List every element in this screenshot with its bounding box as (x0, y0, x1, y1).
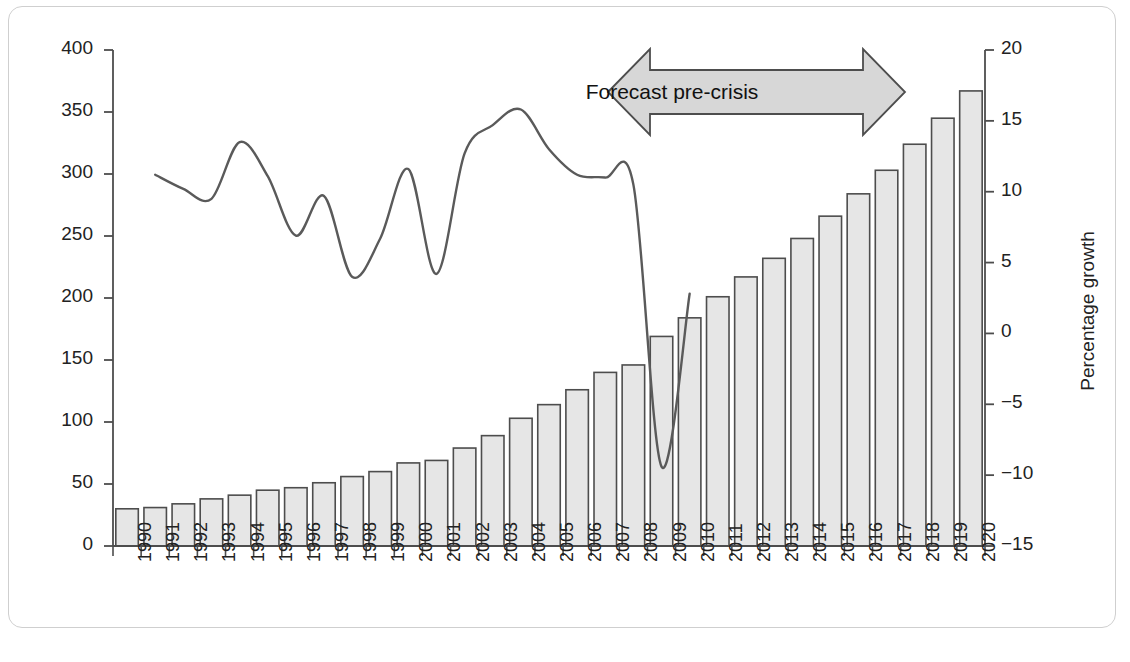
x-axis-tick-label-2012: 2012 (754, 522, 775, 562)
x-axis-tick-label-1991: 1991 (163, 522, 184, 562)
x-axis-tick-label-2020: 2020 (979, 522, 1000, 562)
bar-2013 (763, 258, 786, 546)
x-axis-tick-label-2009: 2009 (670, 522, 691, 562)
bar-2014 (791, 238, 814, 546)
x-axis-tick-label-1990: 1990 (135, 522, 156, 562)
y-axis-right-tick-label-0: 0 (1001, 320, 1012, 342)
x-axis-tick-label-2017: 2017 (895, 522, 916, 562)
x-axis-tick-label-1998: 1998 (360, 522, 381, 562)
x-axis-tick-label-2001: 2001 (444, 522, 465, 562)
y-axis-left-tick-label-0: 0 (3, 533, 93, 555)
y-axis-left-tick-label-350: 350 (3, 99, 93, 121)
x-axis-tick-label-2000: 2000 (416, 522, 437, 562)
y-axis-right-title: Percentage growth (1077, 231, 1099, 391)
x-axis-tick-label-1996: 1996 (304, 522, 325, 562)
x-axis-tick-label-2005: 2005 (557, 522, 578, 562)
bar-2007 (594, 372, 617, 546)
y-axis-left-tick-label-100: 100 (3, 409, 93, 431)
x-axis-tick-label-2018: 2018 (923, 522, 944, 562)
y-axis-left-tick-label-400: 400 (3, 37, 93, 59)
x-axis-tick-label-2008: 2008 (641, 522, 662, 562)
x-axis-tick-label-1999: 1999 (388, 522, 409, 562)
y-axis-right-tick-label-10: 10 (1001, 179, 1022, 201)
bar-2016 (847, 194, 870, 546)
y-axis-left-tick-label-150: 150 (3, 347, 93, 369)
bar-2012 (735, 277, 758, 546)
forecast-pre-crisis-label: Forecast pre-crisis (586, 80, 759, 104)
y-axis-right-tick-label-15: 15 (1001, 108, 1022, 130)
y-axis-right-tick-label-20: 20 (1001, 37, 1022, 59)
x-axis-tick-label-2014: 2014 (810, 522, 831, 562)
y-axis-left-title: Million TEUs (0, 258, 2, 364)
x-axis-tick-label-2003: 2003 (501, 522, 522, 562)
bar-2011 (707, 297, 730, 546)
y-axis-right-tick-label-5: 5 (1001, 250, 1012, 272)
bar-2009 (650, 336, 673, 546)
x-axis-tick-label-1994: 1994 (248, 522, 269, 562)
bar-2015 (819, 216, 842, 546)
x-axis-tick-label-2011: 2011 (726, 523, 747, 562)
bar-2008 (622, 365, 645, 546)
y-axis-left-tick-label-200: 200 (3, 285, 93, 307)
x-axis-tick-label-1992: 1992 (191, 522, 212, 562)
x-axis-tick-label-2007: 2007 (613, 522, 634, 562)
bar-2018 (903, 144, 926, 546)
x-axis-tick-label-2016: 2016 (866, 522, 887, 562)
x-axis-tick-label-2004: 2004 (529, 522, 550, 562)
y-axis-left-tick-label-50: 50 (3, 471, 93, 493)
y-axis-left-tick-label-250: 250 (3, 223, 93, 245)
bar-2017 (875, 170, 898, 546)
x-axis-tick-label-2019: 2019 (951, 522, 972, 562)
y-axis-left-tick-label-300: 300 (3, 161, 93, 183)
x-axis-tick-label-2010: 2010 (698, 522, 719, 562)
bar-2019 (932, 118, 955, 546)
y-axis-right-tick-label-−15: −15 (1001, 533, 1033, 555)
bar-2020 (960, 91, 983, 546)
x-axis-tick-label-1993: 1993 (219, 522, 240, 562)
chart-svg (0, 0, 1130, 662)
x-axis-tick-label-2015: 2015 (838, 522, 859, 562)
x-axis-tick-label-2006: 2006 (585, 522, 606, 562)
x-axis-tick-label-2013: 2013 (782, 522, 803, 562)
x-axis-tick-label-2002: 2002 (473, 522, 494, 562)
y-axis-right-tick-label-−10: −10 (1001, 462, 1033, 484)
x-axis-tick-label-1995: 1995 (276, 522, 297, 562)
y-axis-right-tick-label-−5: −5 (1001, 391, 1023, 413)
x-axis-tick-label-1997: 1997 (332, 522, 353, 562)
bars-layer (116, 91, 982, 546)
